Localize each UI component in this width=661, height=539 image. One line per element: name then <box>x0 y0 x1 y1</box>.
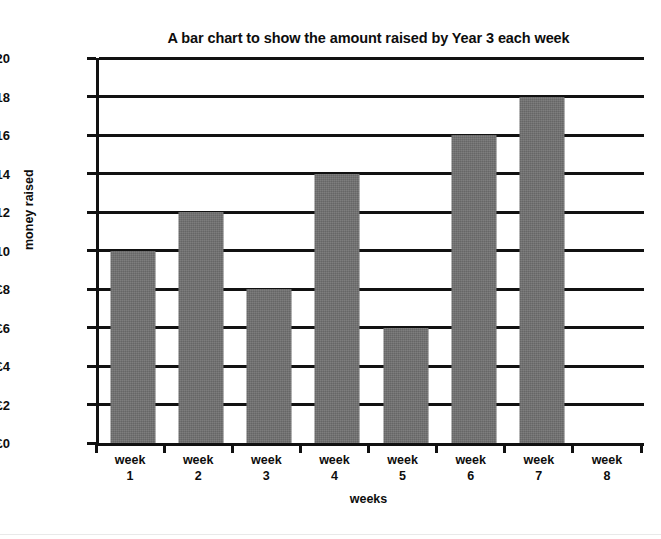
x-axis-title: weeks <box>96 492 641 506</box>
bar-slot <box>372 58 440 443</box>
bar[interactable] <box>111 251 156 444</box>
bar-slot <box>99 58 167 443</box>
bar[interactable] <box>451 135 496 443</box>
x-axis-label-number: 8 <box>567 468 647 484</box>
bar-chart: A bar chart to show the amount raised by… <box>0 0 661 539</box>
y-axis-tick <box>87 365 96 368</box>
bar-slot <box>235 58 303 443</box>
y-axis-tick-label: £4 <box>0 359 10 374</box>
bar[interactable] <box>315 174 360 444</box>
y-axis-tick-label: £12 <box>0 205 10 220</box>
bottom-rule <box>0 534 661 535</box>
bar-slot <box>303 58 371 443</box>
bars-group <box>99 58 644 443</box>
y-axis-tick <box>87 249 96 252</box>
y-axis-tick <box>87 57 96 60</box>
y-axis-tick <box>87 172 96 175</box>
y-axis-tick-label: £6 <box>0 320 10 335</box>
plot-area <box>96 58 644 446</box>
y-axis-tick-label: £0 <box>0 436 10 451</box>
y-axis-tick-label: £14 <box>0 166 10 181</box>
bar-slot <box>167 58 235 443</box>
bar-slot <box>576 58 644 443</box>
y-axis-tick <box>87 288 96 291</box>
y-axis-tick-label: £10 <box>0 243 10 258</box>
bar[interactable] <box>383 328 428 444</box>
bar-slot <box>440 58 508 443</box>
y-axis-tick-label: £20 <box>0 51 10 66</box>
y-axis-tick <box>87 403 96 406</box>
bar[interactable] <box>519 97 564 444</box>
chart-title: A bar chart to show the amount raised by… <box>96 30 641 46</box>
y-axis-tick-label: £18 <box>0 89 10 104</box>
y-axis-tick-label: £8 <box>0 282 10 297</box>
bar-slot <box>508 58 576 443</box>
y-axis-tick <box>87 326 96 329</box>
bar[interactable] <box>247 289 292 443</box>
y-axis-tick-label: £2 <box>0 397 10 412</box>
y-axis-tick <box>87 95 96 98</box>
y-axis-title: money raised <box>22 169 36 250</box>
y-axis-tick <box>87 211 96 214</box>
x-axis-label-word: week <box>567 452 647 468</box>
x-axis-tick-label: week8 <box>567 452 647 484</box>
y-axis-tick-label: £16 <box>0 128 10 143</box>
y-axis-tick <box>87 134 96 137</box>
bar[interactable] <box>179 212 224 443</box>
